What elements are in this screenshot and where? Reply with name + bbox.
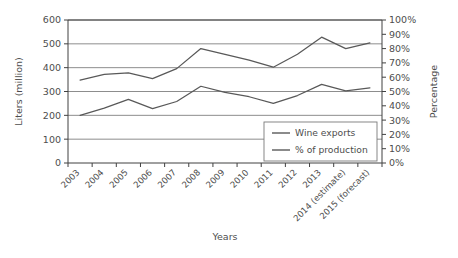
x-axis-category-label: 2009: [204, 167, 227, 190]
y-axis-right-tick-label: 50%: [389, 86, 410, 97]
x-axis-title: Years: [211, 231, 237, 242]
y-axis-right-tick-label: 0%: [389, 157, 404, 168]
x-axis-category-label: 2012: [276, 167, 299, 190]
x-axis-category-label: 2008: [180, 167, 203, 190]
x-axis-category-label: 2011: [252, 167, 275, 190]
x-axis-category-label: 2004: [83, 167, 106, 190]
x-axis-category-label: 2005: [107, 167, 130, 190]
y-axis-right-tick-label: 20%: [389, 129, 410, 140]
chart-canvas: 01002003004005006000%10%20%30%40%50%60%7…: [0, 0, 458, 258]
y-axis-right-tick-label: 10%: [389, 143, 410, 154]
y-axis-right-tick-label: 70%: [389, 57, 410, 68]
y-axis-right-tick-label: 40%: [389, 100, 410, 111]
x-axis-category-label: 2007: [156, 167, 179, 190]
y-axis-right-tick-label: 80%: [389, 43, 410, 54]
x-axis-category-label: 2003: [59, 167, 82, 190]
y-axis-left-tick-label: 200: [43, 110, 61, 121]
wine-exports-chart: 01002003004005006000%10%20%30%40%50%60%7…: [0, 0, 458, 258]
y-axis-right-tick-label: 60%: [389, 72, 410, 83]
legend-label-wine-exports: Wine exports: [295, 127, 356, 138]
series-line-wine-exports: [80, 84, 370, 115]
y-axis-left-tick-label: 100: [43, 134, 61, 145]
y-axis-left-tick-label: 600: [43, 14, 61, 25]
y-axis-right-title: Percentage: [428, 65, 439, 119]
y-axis-left-tick-label: 400: [43, 62, 61, 73]
y-axis-left-tick-label: 0: [55, 157, 61, 168]
y-axis-right-tick-label: 30%: [389, 115, 410, 126]
y-axis-right-tick-label: 100%: [389, 14, 416, 25]
x-axis-category-label: 2010: [228, 167, 251, 190]
y-axis-right-tick-label: 90%: [389, 29, 410, 40]
legend-label-percent-of-production: % of production: [295, 144, 368, 155]
x-axis-category-label: 2006: [131, 167, 154, 190]
y-axis-left-tick-label: 300: [43, 86, 61, 97]
y-axis-left-tick-label: 500: [43, 38, 61, 49]
y-axis-left-title: Liters (million): [13, 57, 24, 125]
